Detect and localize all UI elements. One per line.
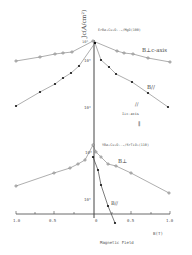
bottom-ytick-lower: 10⁵ bbox=[84, 197, 91, 202]
top-series-perp-label: B⊥c-axis bbox=[142, 47, 167, 53]
x-axis-ticks bbox=[16, 211, 170, 214]
top-ytick-lower: 10⁴ bbox=[84, 105, 91, 110]
top-ytick-upper: 10⁶ bbox=[82, 40, 89, 44]
bottom-ytick-upper: 10⁶ bbox=[85, 150, 92, 155]
y-axis-label: Jc(A/cm²) bbox=[80, 10, 88, 39]
x-tick-label-right-05: 0.5 bbox=[127, 218, 135, 223]
bottom-series-perp-line bbox=[16, 145, 169, 193]
bottom-series-perp-label: B⊥ bbox=[118, 158, 127, 164]
top-sample-label: ErBa₂Cu₃O₇₋ₓ/MgO(100) bbox=[98, 28, 141, 32]
x-axis-title: Magnetic Field bbox=[100, 240, 134, 245]
figure: Jc(A/cm²) ErBa₂Cu₃O₇₋ₓ/MgO(100) 10⁶ 10⁵ … bbox=[0, 0, 192, 255]
bottom-series-par-label: B// bbox=[111, 200, 118, 206]
x-tick-label-zero: 0 bbox=[95, 218, 98, 223]
bottom-series-perp-markers bbox=[15, 144, 170, 194]
top-current-arrow2: ‖ bbox=[138, 120, 141, 127]
x-tick-label-right-1: 1.0 bbox=[166, 218, 174, 223]
top-series-par-label: B// bbox=[147, 84, 155, 90]
top-current-arrow: // bbox=[135, 101, 139, 107]
x-axis-label: B(T) bbox=[153, 231, 163, 236]
top-ytick-mid: 10⁵ bbox=[84, 58, 91, 63]
x-tick-label-left-1: 1.0 bbox=[13, 218, 21, 223]
x-tick-label-left-05: 0.5 bbox=[49, 218, 57, 223]
top-current-label: I⊥c-axis bbox=[122, 112, 139, 116]
bottom-sample-label: YBa₂Cu₃O₇₋ₓ/SrTiO₃(110) bbox=[102, 143, 149, 147]
